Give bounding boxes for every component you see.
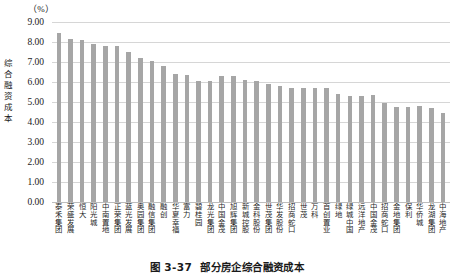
bar-series [52,22,450,202]
bar[interactable] [336,94,341,202]
bar[interactable] [371,95,376,202]
bar-slot [88,22,100,202]
x-label-slot: 万科 [309,203,321,257]
x-axis-category-label: 首创置业 [323,203,331,234]
x-axis-category-label: 招商蛇口 [288,203,296,234]
x-axis-category-label: 华侨城 [416,203,424,226]
bar[interactable] [394,107,399,202]
x-label-slot: 龙湖集团 [426,203,438,257]
bar[interactable] [441,113,446,202]
x-label-slot: 蓝光发展 [123,203,135,257]
x-axis-category-label: 龙光集团 [206,203,214,234]
bar-slot [263,22,275,202]
x-label-slot: 中南置地 [100,203,112,257]
x-axis-category-label: 碧桂园 [195,203,203,226]
x-label-slot: 绿地 [332,203,344,257]
bar[interactable] [278,86,283,202]
bar[interactable] [243,80,248,202]
x-label-slot: 阳光城 [88,203,100,257]
y-axis-tick-label: 2.00 [27,157,44,167]
x-axis-category-label: 远洋地产 [357,203,365,234]
x-axis-category-label: 正荣集团 [113,203,121,234]
bar-slot [344,22,356,202]
bar-slot [76,22,88,202]
y-axis-tick-label: 1.00 [27,177,44,187]
bar[interactable] [91,44,96,202]
bar-slot [297,22,309,202]
bar[interactable] [103,46,108,202]
bar[interactable] [161,66,166,202]
x-label-slot: 融信集团 [146,203,158,257]
bar[interactable] [173,74,178,202]
bar-slot [286,22,298,202]
bar[interactable] [348,96,353,202]
bar-slot [391,22,403,202]
x-axis-category-label: 泰禾集团 [55,203,63,234]
bar-slot [65,22,77,202]
bar-slot [437,22,449,202]
bar[interactable] [57,33,62,202]
bar-slot [146,22,158,202]
x-label-slot: 中国金茂 [367,203,379,257]
x-axis-category-label: 奥园集团 [136,203,144,234]
x-axis-category-label: 中国金茂 [218,203,226,234]
x-label-slot: 泰禾集团 [53,203,65,257]
y-axis-tick-label: 6.00 [27,77,44,87]
bar[interactable] [138,58,143,202]
bar[interactable] [429,108,434,202]
x-label-slot: 华夏幸福 [169,203,181,257]
bar[interactable] [115,46,120,202]
y-axis-tick-label: 5.00 [27,97,44,107]
bar-slot [158,22,170,202]
x-axis-category-label: 新城控股 [241,203,249,234]
x-axis-category-label: 中国金茂 [369,203,377,234]
x-axis-category-label: 中海地产 [439,203,447,234]
x-axis-category-label: 阳光城 [90,203,98,226]
y-axis-tick-label: 4.00 [27,117,44,127]
bar[interactable] [126,52,131,202]
x-label-slot: 富力 [181,203,193,257]
bar-slot [274,22,286,202]
bar[interactable] [301,88,306,202]
bar[interactable] [68,39,73,202]
x-label-slot: 招商蛇口 [286,203,298,257]
x-label-slot: 奥园集团 [134,203,146,257]
caption-text: 部分房企综合融资成本 [200,261,304,273]
bar[interactable] [313,88,318,202]
x-label-slot: 碧桂园 [193,203,205,257]
bar[interactable] [289,88,294,202]
bar-slot [239,22,251,202]
bar[interactable] [231,76,236,202]
bar[interactable] [417,106,422,202]
bar[interactable] [219,76,224,202]
x-axis-category-label: 保利 [404,203,412,219]
x-axis-category-label: 恒大 [78,203,86,219]
bar[interactable] [382,103,387,202]
x-axis-category-label: 旭辉集团 [229,203,237,234]
caption-number: 图 3-37 [150,261,192,273]
bar-slot [123,22,135,202]
bar[interactable] [150,61,155,202]
bar[interactable] [80,40,85,202]
x-axis-category-labels: 泰禾集团荣盛发展恒大阳光城中南置地正荣集团蓝光发展奥园集团融信集团融创华夏幸福富… [52,203,450,257]
x-label-slot: 融创 [158,203,170,257]
bar[interactable] [254,81,259,202]
x-label-slot: 新城控股 [239,203,251,257]
bar[interactable] [185,75,190,202]
bar[interactable] [266,84,271,202]
x-label-slot: 金地集团 [391,203,403,257]
x-label-slot: 首创置业 [321,203,333,257]
x-axis-category-label: 华发股份 [276,203,284,234]
bar[interactable] [406,107,411,202]
bar[interactable] [208,81,213,202]
bar[interactable] [324,88,329,202]
bar-slot [414,22,426,202]
bar[interactable] [196,81,201,202]
y-axis-tick-label: 0.00 [27,197,44,207]
x-label-slot: 远洋地产 [356,203,368,257]
figure-container: （%） 综合融资成本 9.008.007.006.005.004.003.002… [0,0,454,277]
bar-slot [426,22,438,202]
figure-caption: 图 3-37部分房企综合融资成本 [0,259,454,274]
bar[interactable] [359,96,364,202]
bar-slot [204,22,216,202]
